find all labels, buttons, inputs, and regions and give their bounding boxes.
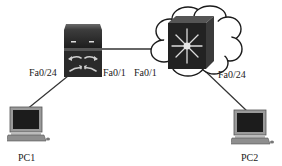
pc1-label: PC1 <box>18 153 35 163</box>
port-label-sw1-fa024: Fa0/24 <box>29 68 57 78</box>
pc1-computer-icon[interactable] <box>7 106 51 146</box>
multilayer-switch-cloud-icon[interactable] <box>148 3 244 79</box>
pc2-label: PC2 <box>241 153 258 163</box>
network-diagram: Fa0/24 Fa0/1 Fa0/1 Fa0/24 PC1 PC2 <box>0 0 282 166</box>
link-sw1-pc1 <box>26 76 68 110</box>
port-label-msw-fa024: Fa0/24 <box>218 70 246 80</box>
port-label-sw1-fa01: Fa0/1 <box>103 68 126 78</box>
pc2-computer-icon[interactable] <box>231 109 275 149</box>
port-label-msw-fa01: Fa0/1 <box>134 68 157 78</box>
layer2-switch-icon[interactable] <box>60 22 104 80</box>
